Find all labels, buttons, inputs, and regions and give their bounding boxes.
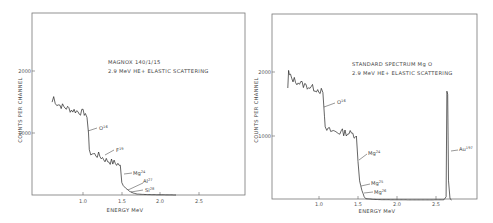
right-ytick-2000: 2000	[258, 69, 271, 75]
left-ann-al27: Al27	[143, 178, 153, 184]
right-ann-au197: Au197	[459, 146, 473, 152]
right-ylabel: COUNTS PER CHANNEL	[253, 77, 259, 143]
left-chart: 2000 1000 1.0 1.5 2.0 2.5 ENERGY MeV COU…	[17, 13, 245, 213]
right-xtick-2.0: 2.0	[393, 201, 401, 207]
left-subtitle: 2.9 MeV HE+ ELASTIC SCATTERING	[108, 68, 209, 74]
right-ann-mg26: Mg26	[374, 189, 387, 196]
left-ylabel: COUNTS PER CHANNEL	[17, 77, 23, 143]
right-chart: 2000 1000 1.0 1.5 2.0 2.5 ENERGY MeV COU…	[253, 14, 477, 214]
left-ann-si28: Si28	[145, 187, 155, 193]
left-ann-o16: O16	[99, 125, 108, 131]
right-xtick-1.5: 1.5	[354, 201, 362, 207]
right-title: STANDARD SPECTRUM Mg O	[352, 61, 432, 68]
left-ann-f19: F19	[116, 147, 124, 153]
left-title: MAGNOX 140/1/15	[108, 59, 161, 65]
right-xtick-2.5: 2.5	[432, 201, 440, 207]
right-spectrum-line	[288, 70, 452, 200]
left-xtick-2.0: 2.0	[156, 198, 164, 204]
right-ytick-1000: 1000	[258, 133, 271, 139]
right-xtick-1.0: 1.0	[315, 201, 323, 207]
right-subtitle: 2.9 MeV HE+ ELASTIC SCATTERING	[352, 70, 453, 76]
left-xtick-1.5: 1.5	[118, 198, 126, 204]
left-ytick-2000: 2000	[18, 68, 31, 74]
right-ann-o16: O16	[337, 99, 346, 105]
left-xlabel: ENERGY MeV	[107, 207, 144, 213]
right-ann-mg25: Mg25	[371, 180, 383, 187]
figure-canvas: 2000 1000 1.0 1.5 2.0 2.5 ENERGY MeV COU…	[0, 0, 493, 223]
left-frame	[32, 13, 245, 195]
left-ann-mg24: Mg24	[133, 170, 146, 177]
left-spectrum-line	[52, 97, 176, 195]
right-xlabel: ENERGY MeV	[359, 208, 396, 214]
left-xtick-1.0: 1.0	[79, 198, 87, 204]
left-xtick-2.5: 2.5	[195, 198, 203, 204]
right-ann-mg24: Mg24	[368, 150, 381, 157]
